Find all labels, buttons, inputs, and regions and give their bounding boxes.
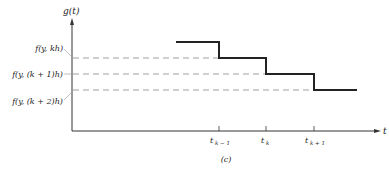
level-label-1: f(y, (k + 1)h) <box>11 70 63 79</box>
svg-text:k: k <box>266 140 270 146</box>
y-axis-arrow-icon <box>70 18 74 25</box>
tick-label-0: t k − 1 <box>210 136 230 146</box>
tick-label-1: t k <box>261 136 270 146</box>
svg-text:t: t <box>210 136 214 145</box>
leader-line-0 <box>64 49 72 57</box>
svg-text:k + 1: k + 1 <box>310 140 325 146</box>
svg-text:t: t <box>305 136 309 145</box>
y-axis-label: g(t) <box>63 6 80 16</box>
level-label-0: f(y, kh) <box>34 44 63 53</box>
figure-caption: (c) <box>221 155 232 164</box>
svg-text:t: t <box>261 136 265 145</box>
level-label-2: f(y, (k + 2)h) <box>11 97 63 106</box>
x-axis-arrow-icon <box>374 129 381 133</box>
svg-text:k − 1: k − 1 <box>215 140 230 146</box>
tick-label-2: t k + 1 <box>305 136 325 146</box>
step-function-curve <box>176 42 357 90</box>
step-function-diagram: g(t) t f(y, kh) f(y, (k + 1)h) f(y, (k +… <box>0 0 389 169</box>
leader-line-2 <box>64 92 72 100</box>
x-axis-label: t <box>383 126 387 136</box>
